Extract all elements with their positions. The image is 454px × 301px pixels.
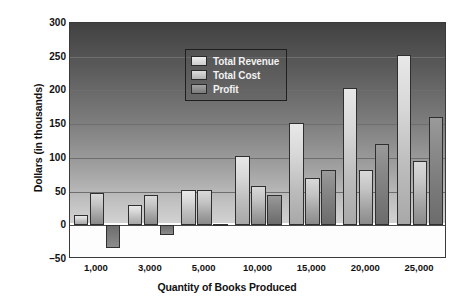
- bar-revenue: [74, 215, 89, 225]
- bar-cost: [197, 190, 212, 225]
- y-tick-label: 300: [20, 17, 66, 28]
- bar-profit: [267, 195, 282, 225]
- x-tick-label: 20,000: [335, 262, 395, 273]
- legend-item-total-revenue: Total Revenue: [191, 54, 279, 68]
- bar-chart: Dollars (in thousands) 30025020015010050…: [0, 0, 454, 301]
- y-tick-label: 100: [20, 151, 66, 162]
- bar-group: [397, 23, 444, 257]
- bar-revenue: [181, 190, 196, 225]
- legend-label-profit: Profit: [213, 84, 239, 95]
- bar-cost: [144, 195, 159, 225]
- y-tick-label: 200: [20, 84, 66, 95]
- bar-revenue: [343, 88, 358, 225]
- bar-cost: [413, 161, 428, 225]
- legend-swatch-total-cost: [191, 70, 207, 80]
- legend-swatch-profit: [191, 84, 207, 94]
- bar-group: [74, 23, 121, 257]
- bar-cost: [251, 186, 266, 225]
- bar-cost: [90, 193, 105, 225]
- bar-profit: [375, 144, 390, 225]
- bar-revenue: [289, 123, 304, 225]
- bar-revenue: [235, 156, 250, 225]
- bar-cost: [305, 178, 320, 225]
- bar-profit: [213, 224, 228, 226]
- x-tick-label: 15,000: [281, 262, 341, 273]
- x-tick-label: 1,000: [66, 262, 126, 273]
- y-tick-label: 150: [20, 118, 66, 129]
- bar-group: [343, 23, 390, 257]
- y-axis-ticks: 300250200150100500–50: [20, 0, 66, 301]
- x-axis-ticks: 1,0003,0005,00010,00015,00020,00025,000: [69, 262, 446, 278]
- legend-label-total-cost: Total Cost: [213, 70, 260, 81]
- bar-cost: [359, 170, 374, 225]
- x-tick-label: 3,000: [120, 262, 180, 273]
- bar-profit: [160, 225, 175, 235]
- y-tick-label: –50: [20, 253, 66, 264]
- x-tick-label: 25,000: [389, 262, 449, 273]
- x-axis-label: Quantity of Books Produced: [0, 281, 454, 293]
- bar-revenue: [397, 55, 412, 226]
- legend: Total Revenue Total Cost Profit: [185, 49, 287, 101]
- bar-group: [128, 23, 175, 257]
- bar-revenue: [128, 205, 143, 225]
- bar-profit: [429, 117, 444, 225]
- bar-group: [289, 23, 336, 257]
- y-tick-label: 50: [20, 185, 66, 196]
- bar-profit: [321, 170, 336, 225]
- legend-label-total-revenue: Total Revenue: [213, 56, 279, 67]
- legend-item-profit: Profit: [191, 82, 279, 96]
- legend-item-total-cost: Total Cost: [191, 68, 279, 82]
- x-tick-label: 5,000: [174, 262, 234, 273]
- legend-swatch-total-revenue: [191, 56, 207, 66]
- y-tick-label: 250: [20, 50, 66, 61]
- y-tick-label: 0: [20, 219, 66, 230]
- bar-profit: [106, 225, 121, 247]
- x-tick-label: 10,000: [228, 262, 288, 273]
- plot-area: Total Revenue Total Cost Profit: [69, 22, 446, 258]
